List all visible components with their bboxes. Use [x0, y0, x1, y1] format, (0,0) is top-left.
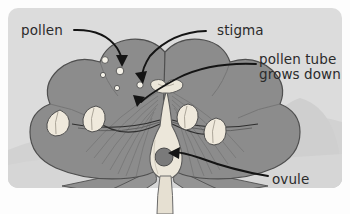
label-stigma: stigma	[217, 23, 264, 38]
label-pollen-tube-line1: pollen tube	[259, 52, 341, 67]
label-pollen-tube-line2: grows down	[259, 67, 341, 82]
ovule-shape	[155, 148, 173, 166]
stem	[157, 176, 173, 214]
label-pollen: pollen	[21, 23, 63, 38]
label-ovule: ovule	[272, 172, 309, 187]
anther	[177, 104, 198, 130]
label-pollen-tube: pollen tube grows down	[259, 52, 341, 82]
diagram-canvas: pollen stigma pollen tube grows down ovu…	[0, 0, 350, 214]
